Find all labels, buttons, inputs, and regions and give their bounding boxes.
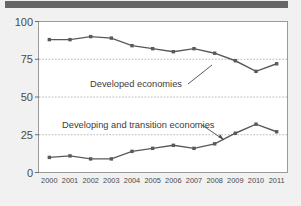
x-tick-label-2005: 2005 <box>144 176 160 185</box>
x-tick-label-2004: 2004 <box>124 176 140 185</box>
data-point-marker <box>275 130 278 133</box>
annotation-developed-economies: Developed economies <box>90 79 182 89</box>
data-point-marker <box>151 47 154 50</box>
data-point-marker <box>213 142 216 145</box>
data-point-marker <box>275 62 278 65</box>
data-point-marker <box>172 144 175 147</box>
data-point-marker <box>192 47 195 50</box>
line-chart: 100 75 50 25 0 2000200120022003200420052… <box>0 9 301 206</box>
data-point-marker <box>110 36 113 39</box>
y-tick-label-75: 75 <box>21 53 33 65</box>
data-point-marker <box>234 132 237 135</box>
data-point-marker <box>234 59 237 62</box>
data-point-marker <box>68 38 71 41</box>
x-tick-label-2010: 2010 <box>248 176 264 185</box>
y-tick-label-50: 50 <box>21 91 33 103</box>
header-bar <box>5 1 288 8</box>
data-point-marker <box>254 122 257 125</box>
x-axis-labels: 2000200120022003200420052006200720082009… <box>41 176 285 185</box>
x-tick-label-2002: 2002 <box>82 176 98 185</box>
data-point-marker <box>89 157 92 160</box>
x-tick-label-2011: 2011 <box>269 176 285 185</box>
data-point-marker <box>48 156 51 159</box>
data-point-marker <box>254 70 257 73</box>
data-point-marker <box>172 50 175 53</box>
x-tick-label-2008: 2008 <box>206 176 222 185</box>
x-tick-label-2001: 2001 <box>62 176 78 185</box>
screenshot-root: 100 75 50 25 0 2000200120022003200420052… <box>0 0 301 206</box>
x-tick-label-2009: 2009 <box>227 176 243 185</box>
x-tick-label-2000: 2000 <box>41 176 57 185</box>
data-point-marker <box>213 52 216 55</box>
chart-figure: 100 75 50 25 0 2000200120022003200420052… <box>0 9 301 206</box>
x-tick-label-2007: 2007 <box>186 176 202 185</box>
x-tick-label-2003: 2003 <box>103 176 119 185</box>
data-point-marker <box>110 157 113 160</box>
data-point-marker <box>48 38 51 41</box>
y-tick-label-0: 0 <box>27 167 33 179</box>
y-tick-label-25: 25 <box>21 129 33 141</box>
data-point-marker <box>68 154 71 157</box>
annotation-developing-economies: Developing and transition economies <box>62 120 215 130</box>
data-point-marker <box>151 147 154 150</box>
y-axis-labels: 100 75 50 25 0 <box>15 16 33 179</box>
x-tick-label-2006: 2006 <box>165 176 181 185</box>
data-point-marker <box>192 147 195 150</box>
data-point-marker <box>130 44 133 47</box>
data-point-marker <box>130 150 133 153</box>
plot-area <box>39 22 288 173</box>
y-tick-label-100: 100 <box>15 16 33 28</box>
data-point-marker <box>89 35 92 38</box>
